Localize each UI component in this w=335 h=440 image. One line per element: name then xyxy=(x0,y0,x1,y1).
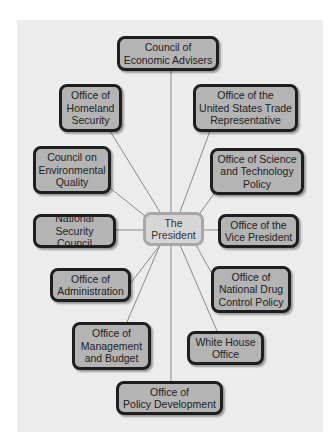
node-label: Office of Science and Technology Policy xyxy=(217,153,296,191)
node-council-on-environmental-quality: Council on Environmental Quality xyxy=(33,146,111,194)
node-label: Council of Economic Advisers xyxy=(124,41,213,66)
node-label: Office of Administration xyxy=(57,273,124,298)
node-science-technology-policy: Office of Science and Technology Policy xyxy=(210,148,304,195)
node-national-security-council: National Security Council xyxy=(33,214,116,248)
node-policy-development: Office of Policy Development xyxy=(116,381,223,415)
node-council-of-economic-advisers: Council of Economic Advisers xyxy=(117,36,219,71)
node-label: Office of National Drug Control Policy xyxy=(219,271,284,309)
node-white-house-office: White House Office xyxy=(187,331,264,365)
node-label: Council on Environmental Quality xyxy=(38,151,105,189)
node-label: White House Office xyxy=(195,336,255,361)
node-office-of-vice-president: Office of the Vice President xyxy=(218,214,299,248)
node-label: Office of Homeland Security xyxy=(67,89,115,127)
node-office-of-homeland-security: Office of Homeland Security xyxy=(59,84,122,132)
node-label: National Security Council xyxy=(38,212,111,250)
node-the-president: The President xyxy=(143,212,204,246)
node-label: Office of the Vice President xyxy=(225,219,293,244)
node-label: The President xyxy=(151,217,195,242)
node-management-and-budget: Office of Management and Budget xyxy=(72,322,151,370)
node-label: Office of Policy Development xyxy=(123,386,216,411)
node-label: Office of Management and Budget xyxy=(81,327,142,365)
node-us-trade-representative: Office of the United States Trade Repres… xyxy=(193,84,298,132)
node-office-of-administration: Office of Administration xyxy=(50,268,131,302)
node-national-drug-control-policy: Office of National Drug Control Policy xyxy=(211,266,291,313)
node-label: Office of the United States Trade Repres… xyxy=(199,89,292,127)
